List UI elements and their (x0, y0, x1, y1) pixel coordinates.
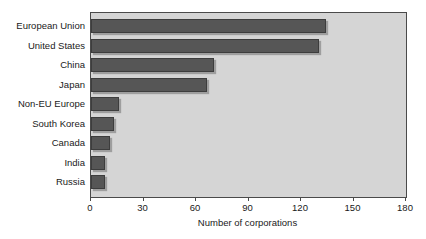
x-tick-label: 180 (385, 202, 425, 214)
x-tick-mark (195, 197, 196, 201)
x-tick-label: 30 (123, 202, 163, 214)
x-axis-ticks: 0306090120150180 (0, 0, 426, 239)
x-tick-mark (248, 197, 249, 201)
x-tick-label: 120 (280, 202, 320, 214)
bar-chart: European UnionUnited StatesChinaJapanNon… (0, 0, 426, 239)
x-tick-label: 60 (175, 202, 215, 214)
x-tick-mark (353, 197, 354, 201)
x-tick-label: 90 (228, 202, 268, 214)
x-tick-mark (90, 197, 91, 201)
x-tick-mark (300, 197, 301, 201)
x-tick-label: 150 (333, 202, 373, 214)
x-tick-label: 0 (70, 202, 110, 214)
x-axis-title: Number of corporations (90, 217, 405, 228)
x-tick-mark (405, 197, 406, 201)
x-tick-mark (143, 197, 144, 201)
